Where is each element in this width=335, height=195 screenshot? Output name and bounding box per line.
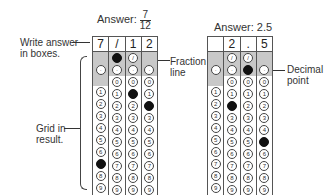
bubble-0[interactable]: 0 [144,77,154,87]
bubble-0[interactable]: 0 [128,77,138,87]
bubble-7[interactable]: 7 [144,161,154,171]
bubble-2[interactable]: 2 [128,101,138,111]
bubble-7[interactable]: 7 [128,161,138,171]
bubble-8[interactable]: 8 [211,171,221,181]
bubble-4[interactable]: 4 [227,125,237,135]
bubble-9[interactable]: 9 [96,183,106,193]
bubble-1[interactable]: 1 [227,89,237,99]
bubble-1[interactable]: 1 [144,89,154,99]
bubble-5[interactable]: 5 [112,137,122,147]
bubble-6[interactable]: 6 [243,149,253,159]
bubble-7[interactable]: 7 [227,161,237,171]
dot-bubble[interactable]: · [96,65,106,75]
slash-bubble[interactable]: / [227,53,237,63]
bubble-1[interactable]: 1 [243,89,253,99]
dot-bubble[interactable]: · [112,65,122,75]
bubble-2-filled[interactable]: 2 [144,101,154,111]
bubble-7-filled[interactable]: 7 [96,159,106,169]
bubble-6[interactable]: 6 [259,149,269,159]
bubble-1[interactable]: 1 [211,87,221,97]
bubble-3[interactable]: 3 [227,113,237,123]
bubble-1[interactable]: 1 [96,87,106,97]
bubble-2[interactable]: 2 [211,99,221,109]
dot-bubble-filled[interactable]: · [243,65,253,75]
bubble-4[interactable]: 4 [243,125,253,135]
bubble-7[interactable]: 7 [259,161,269,171]
bubble-9[interactable]: 9 [128,185,138,195]
bubble-7[interactable]: 7 [243,161,253,171]
bubble-4[interactable]: 4 [259,125,269,135]
bubble-5[interactable]: 5 [128,137,138,147]
dot-bubble[interactable]: · [211,65,221,75]
bubble-4[interactable]: 4 [211,123,221,133]
bubble-8[interactable]: 8 [128,173,138,183]
bubble-2[interactable]: 2 [96,99,106,109]
bubble-1[interactable]: 1 [112,89,122,99]
bubble-8[interactable]: 8 [259,173,269,183]
bubble-8[interactable]: 8 [144,173,154,183]
bubble-9[interactable]: 9 [259,185,269,195]
slash-bubble-filled[interactable]: / [112,53,122,63]
bubble-1-filled[interactable]: 1 [128,89,138,99]
bubble-5[interactable]: 5 [243,137,253,147]
bubble-4[interactable]: 4 [112,125,122,135]
bubble-3[interactable]: 3 [128,113,138,123]
bubble-0[interactable]: 0 [259,77,269,87]
dot-bubble[interactable]: · [144,65,154,75]
bubble-8[interactable]: 8 [112,173,122,183]
bubble-5[interactable]: 5 [96,135,106,145]
bubble-4[interactable]: 4 [128,125,138,135]
bubble-3[interactable]: 3 [144,113,154,123]
bubble-9[interactable]: 9 [227,185,237,195]
bubble-0[interactable]: 0 [112,77,122,87]
grid-arrow [64,128,80,129]
bubble-1[interactable]: 1 [259,89,269,99]
slash-bubble[interactable]: / [128,53,138,63]
answer-box[interactable]: 5 [256,37,272,51]
bubble-4[interactable]: 4 [144,125,154,135]
answer-fraction: 7 12 [140,10,151,31]
dot-bubble[interactable]: · [128,65,138,75]
bubble-0[interactable]: 0 [243,77,253,87]
bubble-3[interactable]: 3 [211,111,221,121]
answer-box[interactable]: / [108,37,124,51]
bubble-0[interactable]: 0 [227,77,237,87]
answer-box[interactable]: 7 [93,37,108,51]
bubble-6[interactable]: 6 [144,149,154,159]
answer-box[interactable]: 2 [141,37,157,51]
bubble-5[interactable]: 5 [144,137,154,147]
bubble-3[interactable]: 3 [259,113,269,123]
answer-box[interactable]: . [240,37,256,51]
bubble-3[interactable]: 3 [243,113,253,123]
bubble-8[interactable]: 8 [227,173,237,183]
bubble-2[interactable]: 2 [112,101,122,111]
bubble-9[interactable]: 9 [144,185,154,195]
bubble-2[interactable]: 2 [243,101,253,111]
bubble-6[interactable]: 6 [128,149,138,159]
bubble-9[interactable]: 9 [243,185,253,195]
bubble-6[interactable]: 6 [211,147,221,157]
bubble-3[interactable]: 3 [112,113,122,123]
bubble-5[interactable]: 5 [211,135,221,145]
answer-box[interactable] [208,37,223,51]
bubble-8[interactable]: 8 [96,171,106,181]
bubble-5-filled[interactable]: 5 [259,137,269,147]
bubble-6[interactable]: 6 [96,147,106,157]
dot-bubble[interactable]: · [259,65,269,75]
bubble-7[interactable]: 7 [211,159,221,169]
bubble-4[interactable]: 4 [96,123,106,133]
bubble-7[interactable]: 7 [112,161,122,171]
slash-bubble[interactable]: / [243,53,253,63]
bubble-2-filled[interactable]: 2 [227,101,237,111]
bubble-8[interactable]: 8 [243,173,253,183]
answer-box[interactable]: 1 [125,37,141,51]
bubble-3[interactable]: 3 [96,111,106,121]
bubble-9[interactable]: 9 [211,183,221,193]
dot-bubble[interactable]: · [227,65,237,75]
bubble-6[interactable]: 6 [227,149,237,159]
bubble-2[interactable]: 2 [259,101,269,111]
bubble-6[interactable]: 6 [112,149,122,159]
bubble-9[interactable]: 9 [112,185,122,195]
answer-box[interactable]: 2 [223,37,239,51]
bubble-5[interactable]: 5 [227,137,237,147]
